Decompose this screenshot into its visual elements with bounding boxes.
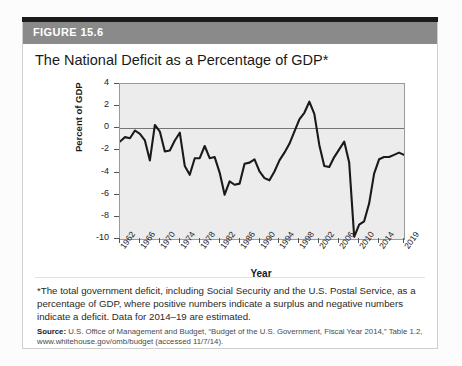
figure-card: FIGURE 15.6 The National Deficit as a Pe… <box>22 22 438 349</box>
y-axis-tick <box>114 216 119 217</box>
footnote-text: *The total government deficit, including… <box>37 284 425 324</box>
figure-badge-bar: FIGURE 15.6 <box>23 22 437 44</box>
y-axis-tick-label: 0 <box>83 121 109 131</box>
y-axis-tick-label: -6 <box>83 188 109 198</box>
figure-page: FIGURE 15.6 The National Deficit as a Pe… <box>0 0 462 366</box>
deficit-line-series <box>120 84 404 239</box>
plot-region <box>119 83 405 240</box>
y-axis-tick-label: 2 <box>83 99 109 109</box>
y-axis-tick <box>114 105 119 106</box>
y-axis-tick-label: -8 <box>83 210 109 220</box>
notes-divider <box>35 277 425 278</box>
y-axis-tick <box>114 149 119 150</box>
figure-number-label: FIGURE 15.6 <box>33 26 103 38</box>
y-axis-tick <box>114 172 119 173</box>
y-axis-tick <box>114 127 119 128</box>
chart-area: Percent of GDP 420-2-4-6-8-10 1962196619… <box>35 80 425 275</box>
source-label: Source: <box>37 327 66 336</box>
source-text: U.S. Office of Management and Budget, “B… <box>37 327 422 347</box>
y-axis-tick <box>114 194 119 195</box>
notes-block: *The total government deficit, including… <box>37 284 425 348</box>
figure-title: The National Deficit as a Percentage of … <box>35 52 328 68</box>
source-line: Source: U.S. Office of Management and Bu… <box>37 327 425 348</box>
y-axis-title: Percent of GDP <box>73 82 84 152</box>
y-axis-tick-label: 4 <box>83 77 109 87</box>
y-axis-tick <box>114 83 119 84</box>
y-axis-tick-label: -2 <box>83 143 109 153</box>
y-axis-tick-label: -10 <box>83 232 109 242</box>
y-axis-tick-label: -4 <box>83 166 109 176</box>
